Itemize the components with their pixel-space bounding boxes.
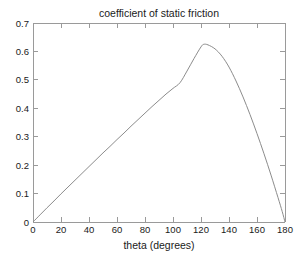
x-tick-label: 180 (277, 224, 293, 235)
y-tick-marks (33, 23, 285, 222)
y-tick-label: 0.5 (16, 74, 29, 85)
data-series-curve (33, 44, 285, 222)
y-tick-label: 0.3 (16, 131, 29, 142)
x-axis-title: theta (degrees) (123, 239, 194, 251)
x-tick-label: 40 (84, 224, 95, 235)
y-tick-labels: 0 0.1 0.2 0.3 0.4 0.5 0.6 0.7 (16, 18, 29, 228)
x-tick-label: 160 (249, 224, 265, 235)
y-tick-label: 0.7 (16, 18, 29, 29)
y-tick-label: 0.1 (16, 188, 29, 199)
y-tick-label: 0.4 (16, 103, 29, 114)
x-tick-labels: 0 20 40 60 80 100 120 140 160 180 (30, 224, 293, 235)
x-tick-marks (33, 23, 285, 222)
x-tick-label: 20 (56, 224, 67, 235)
x-tick-label: 60 (112, 224, 123, 235)
axes-frame (33, 23, 285, 222)
y-tick-label: 0.6 (16, 46, 29, 57)
x-tick-label: 100 (165, 224, 181, 235)
chart-figure: coefficient of static friction (0, 0, 306, 264)
chart-canvas: coefficient of static friction (0, 0, 306, 264)
x-tick-label: 120 (193, 224, 209, 235)
chart-title: coefficient of static friction (99, 7, 219, 19)
x-tick-label: 140 (221, 224, 237, 235)
x-tick-label: 80 (140, 224, 151, 235)
x-tick-label: 0 (30, 224, 35, 235)
y-tick-label: 0 (24, 217, 29, 228)
y-tick-label: 0.2 (16, 160, 29, 171)
